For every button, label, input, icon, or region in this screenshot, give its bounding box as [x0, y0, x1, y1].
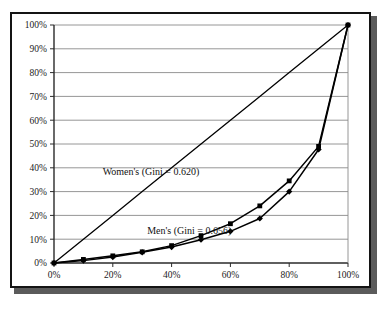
x-tick-label-80: 80%: [280, 270, 298, 280]
marker-point: [257, 203, 262, 208]
x-tick-label-100: 100%: [337, 270, 359, 280]
x-axis-tick-labels: 0%20%40%60%80%100%: [48, 270, 360, 280]
y-tick-label-10: 10%: [30, 235, 48, 245]
x-tick-label-40: 40%: [163, 270, 181, 280]
y-tick-label-70: 70%: [30, 92, 48, 102]
y-tick-label-80: 80%: [30, 68, 48, 78]
y-axis-tick-labels: 0%10%20%30%40%50%60%70%80%90%100%: [25, 20, 47, 268]
gridlines: [54, 25, 348, 239]
lorenz-curve-figure: ··· ·· 0%10%20%30%40%50%60%70%80%90%100%…: [0, 0, 382, 310]
marker-point: [287, 178, 292, 183]
y-tick-label-30: 30%: [30, 187, 48, 197]
y-tick-label-40: 40%: [30, 163, 48, 173]
chart-plot-area: 0%10%20%30%40%50%60%70%80%90%100% 0%20%4…: [0, 0, 382, 310]
x-tick-label-0: 0%: [48, 270, 61, 280]
y-tick-label-50: 50%: [30, 139, 48, 149]
y-tick-label-20: 20%: [30, 211, 48, 221]
y-tick-label-100: 100%: [25, 20, 47, 30]
y-tick-label-90: 90%: [30, 44, 48, 54]
series-annotation-1: Men's (Gini = 0.656): [147, 225, 231, 237]
y-tick-label-60: 60%: [30, 116, 48, 126]
x-tick-label-20: 20%: [104, 270, 122, 280]
series-annotation-0: Women's (Gini = 0.620): [103, 166, 200, 178]
y-tick-label-0: 0%: [34, 258, 47, 268]
series-annotations: Women's (Gini = 0.620)Men's (Gini = 0.65…: [103, 166, 232, 238]
lorenz-chart-svg: 0%10%20%30%40%50%60%70%80%90%100% 0%20%4…: [0, 0, 382, 310]
x-tick-label-60: 60%: [222, 270, 240, 280]
